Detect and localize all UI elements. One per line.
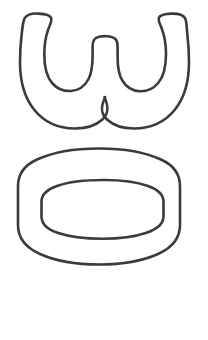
glyph-o — [18, 149, 180, 265]
glyph-w — [20, 14, 189, 129]
drawing-canvas — [0, 0, 208, 340]
blank-lower-margin — [0, 272, 208, 340]
glyph-o-counter-outline — [42, 180, 164, 239]
glyph-w-outline — [20, 14, 189, 129]
